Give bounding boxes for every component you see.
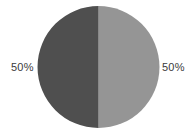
pie-label-right: 50%: [162, 61, 185, 73]
pie-label-left: 50%: [11, 61, 34, 73]
pie-slice-right: [99, 6, 160, 128]
pie-slice-left: [38, 6, 99, 128]
pie-chart-figure: 50% 50%: [0, 0, 195, 133]
